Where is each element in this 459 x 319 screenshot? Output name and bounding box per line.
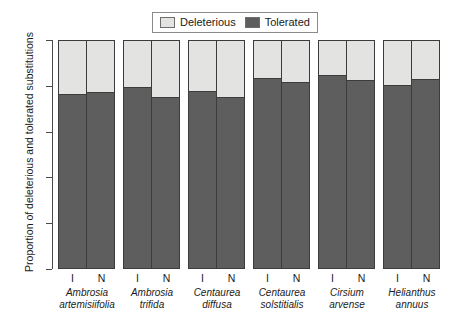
y-axis-tick-0.4 xyxy=(46,177,52,178)
bar-group-ambrosia-artemisiifolia xyxy=(58,40,115,269)
bar-ambrosia-artemisiifolia-N[interactable] xyxy=(86,40,115,269)
bar-segment-tolerated xyxy=(411,79,440,269)
x-tick-label-ambrosia-artemisiifolia-N: N xyxy=(87,273,116,284)
bar-segment-tolerated xyxy=(383,85,412,269)
legend-entry-deleterious: Deleterious xyxy=(160,17,236,28)
bar-centaurea-solstitialis-N[interactable] xyxy=(281,40,310,269)
bar-segment-tolerated xyxy=(58,94,87,269)
x-axis-category-helianthus-annuus: Helianthus annuus xyxy=(375,287,449,310)
category-line-2: trifida xyxy=(115,299,189,311)
legend-label-deleterious: Deleterious xyxy=(180,17,236,28)
legend-entry-tolerated: Tolerated xyxy=(245,17,310,28)
bar-segment-tolerated xyxy=(188,91,217,270)
category-line-1: Ambrosia xyxy=(50,287,124,299)
chart-legend: Deleterious Tolerated xyxy=(152,12,318,33)
y-axis-tick-1.0 xyxy=(46,40,52,41)
x-axis-category-ambrosia-trifida: Ambrosia trifida xyxy=(115,287,189,310)
x-axis-category-cirsium-arvense: Cirsium arvense xyxy=(310,287,384,310)
x-tick-label-centaurea-diffusa-N: N xyxy=(217,273,246,284)
bar-group-centaurea-diffusa xyxy=(188,40,245,269)
legend-swatch-deleterious xyxy=(160,17,175,28)
y-axis-line xyxy=(52,40,53,269)
legend-label-tolerated: Tolerated xyxy=(265,17,310,28)
x-tick-label-ambrosia-trifida-N: N xyxy=(152,273,181,284)
category-line-1: Ambrosia xyxy=(115,287,189,299)
bar-cirsium-arvense-I[interactable] xyxy=(318,40,347,269)
y-axis-tick-0.0 xyxy=(46,269,52,270)
y-axis-tick-0.8 xyxy=(46,86,52,87)
bar-cirsium-arvense-N[interactable] xyxy=(346,40,375,269)
x-axis-category-centaurea-diffusa: Centaurea diffusa xyxy=(180,287,254,310)
chart-figure: Deleterious Tolerated Proportion of dele… xyxy=(0,0,459,319)
category-line-1: Centaurea xyxy=(180,287,254,299)
legend-swatch-tolerated xyxy=(245,17,260,28)
y-axis-tick-0.6 xyxy=(46,132,52,133)
bar-ambrosia-trifida-I[interactable] xyxy=(123,40,152,269)
category-line-2: annuus xyxy=(375,299,449,311)
y-axis-title: Proportion of deleterious and tolerated … xyxy=(23,27,35,277)
bar-segment-tolerated xyxy=(123,87,152,269)
bar-centaurea-diffusa-I[interactable] xyxy=(188,40,217,269)
category-line-1: Helianthus xyxy=(375,287,449,299)
plot-area xyxy=(58,40,449,269)
category-line-1: Cirsium xyxy=(310,287,384,299)
bar-helianthus-annuus-N[interactable] xyxy=(411,40,440,269)
x-axis-category-ambrosia-artemisiifolia: Ambrosia artemisiifolia xyxy=(50,287,124,310)
category-line-2: diffusa xyxy=(180,299,254,311)
bar-segment-tolerated xyxy=(318,75,347,270)
x-tick-label-centaurea-solstitialis-I: I xyxy=(253,273,282,284)
x-tick-label-helianthus-annuus-I: I xyxy=(383,273,412,284)
bar-segment-tolerated xyxy=(216,97,245,269)
x-axis-category-centaurea-solstitialis: Centaurea solstitialis xyxy=(245,287,319,310)
bar-segment-tolerated xyxy=(281,82,310,269)
x-tick-label-ambrosia-trifida-I: I xyxy=(123,273,152,284)
category-line-2: solstitialis xyxy=(245,299,319,311)
x-tick-label-ambrosia-artemisiifolia-I: I xyxy=(58,273,87,284)
bar-segment-tolerated xyxy=(253,78,282,269)
bar-segment-tolerated xyxy=(346,80,375,269)
bar-group-ambrosia-trifida xyxy=(123,40,180,269)
x-tick-label-centaurea-solstitialis-N: N xyxy=(282,273,311,284)
bar-ambrosia-trifida-N[interactable] xyxy=(151,40,180,269)
category-line-2: artemisiifolia xyxy=(50,299,124,311)
y-axis-tick-0.2 xyxy=(46,223,52,224)
bar-centaurea-diffusa-N[interactable] xyxy=(216,40,245,269)
bar-helianthus-annuus-I[interactable] xyxy=(383,40,412,269)
bar-segment-tolerated xyxy=(151,97,180,269)
bar-centaurea-solstitialis-I[interactable] xyxy=(253,40,282,269)
x-tick-label-helianthus-annuus-N: N xyxy=(412,273,441,284)
category-line-1: Centaurea xyxy=(245,287,319,299)
x-tick-label-cirsium-arvense-I: I xyxy=(318,273,347,284)
bar-segment-tolerated xyxy=(86,92,115,269)
x-tick-label-cirsium-arvense-N: N xyxy=(347,273,376,284)
bar-ambrosia-artemisiifolia-I[interactable] xyxy=(58,40,87,269)
bar-group-cirsium-arvense xyxy=(318,40,375,269)
category-line-2: arvense xyxy=(310,299,384,311)
bar-group-centaurea-solstitialis xyxy=(253,40,310,269)
x-tick-label-centaurea-diffusa-I: I xyxy=(188,273,217,284)
bar-group-helianthus-annuus xyxy=(383,40,440,269)
